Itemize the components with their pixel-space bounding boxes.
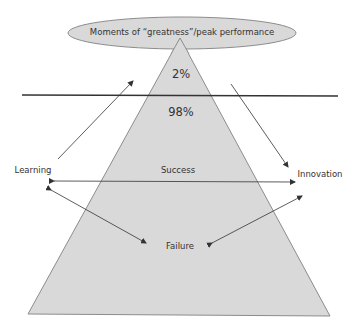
learning-label: Learning	[15, 166, 52, 175]
threshold-line	[22, 95, 338, 96]
innovation-label: Innovation	[297, 170, 342, 179]
failure-label: Failure	[166, 242, 194, 251]
bottom-percent-label: 98%	[168, 107, 194, 119]
ellipse-label: Moments of “greatness”/peak performance	[90, 28, 274, 37]
top-percent-label: 2%	[172, 69, 190, 81]
success-label: Success	[161, 166, 195, 175]
arrow-success-double	[54, 181, 295, 182]
